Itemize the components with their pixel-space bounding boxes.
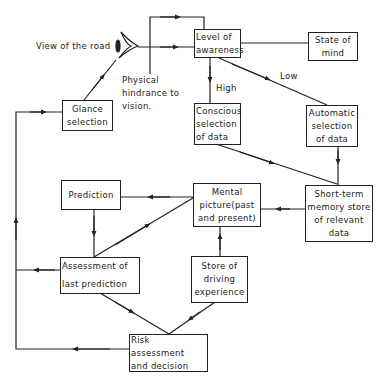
node-store-driving-experience: Store of driving experience bbox=[191, 256, 248, 303]
node-state-of-mind: State of mind bbox=[308, 32, 358, 61]
node-mental-picture: Mental picture(past and present) bbox=[193, 183, 261, 227]
node-short-term-memory: Short-term memory store of relevant data bbox=[305, 185, 373, 242]
node-conscious-selection: Conscious selection of data bbox=[194, 103, 241, 145]
view-of-road-label: View of the road bbox=[36, 40, 110, 53]
node-glance-selection: Glance selection bbox=[62, 100, 113, 131]
hindrance-label: Physical hindrance to vision. bbox=[122, 74, 179, 113]
node-prediction: Prediction bbox=[61, 180, 121, 210]
node-level-of-awareness: Level of awareness bbox=[194, 29, 241, 58]
node-automatic-selection: Automatic selection of data bbox=[306, 105, 358, 147]
edge-label-high: High bbox=[216, 82, 237, 95]
edge-label-low: Low bbox=[280, 70, 298, 83]
eye-icon bbox=[116, 32, 138, 58]
node-assessment-last-prediction: Assessment of last prediction bbox=[60, 257, 140, 294]
node-risk-assessment: Risk assessment and decision bbox=[129, 334, 208, 372]
